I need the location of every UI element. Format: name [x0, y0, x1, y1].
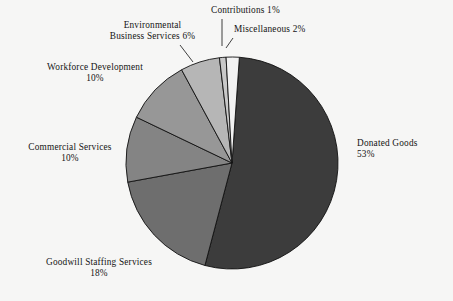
slice-label-workforce-line1: Workforce Development: [33, 62, 157, 73]
slice-label-commercial-services: Commercial Services 10%: [14, 142, 126, 165]
slice-label-workforce-development: Workforce Development 10%: [33, 62, 157, 85]
slice-label-commercial-line2: 10%: [14, 153, 126, 164]
slice-label-donated-goods: Donated Goods 53%: [357, 138, 418, 161]
slice-label-workforce-line2: 10%: [33, 73, 157, 84]
slice-label-contributions: Contributions 1%: [211, 5, 280, 16]
slice-label-goodwill-line1: Goodwill Staffing Services: [31, 257, 167, 268]
leader-line-environmental: [180, 45, 193, 62]
slice-label-goodwill-staffing-services: Goodwill Staffing Services 18%: [31, 257, 167, 280]
slice-label-contributions-text: Contributions 1%: [211, 5, 280, 16]
leader-line-miscellaneous: [226, 38, 233, 48]
slice-label-miscellaneous: Miscellaneous 2%: [234, 24, 305, 35]
slice-label-donated-line1: Donated Goods: [357, 138, 418, 149]
slice-label-donated-line2: 53%: [357, 149, 418, 160]
slice-label-environmental-line2: Business Services 6%: [95, 31, 210, 42]
pie-chart-figure: Contributions 1% Miscellaneous 2% Enviro…: [0, 0, 453, 301]
slice-label-environmental-business-services: Environmental Business Services 6%: [95, 20, 210, 43]
slice-label-miscellaneous-text: Miscellaneous 2%: [234, 24, 305, 35]
slice-label-goodwill-line2: 18%: [31, 268, 167, 279]
pie-slices-group: [126, 57, 338, 269]
slice-label-commercial-line1: Commercial Services: [14, 142, 126, 153]
slice-label-environmental-line1: Environmental: [95, 20, 210, 31]
